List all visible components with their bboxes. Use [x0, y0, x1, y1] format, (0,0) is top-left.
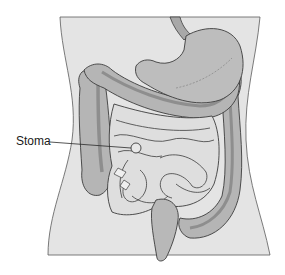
- stoma-leader-line: [50, 142, 131, 148]
- stoma-label: Stoma: [16, 135, 51, 147]
- abdomen-illustration: Stoma: [0, 0, 285, 275]
